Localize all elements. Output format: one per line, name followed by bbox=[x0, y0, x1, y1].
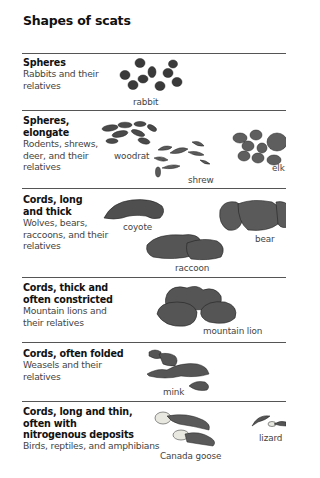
heading-line: often with bbox=[23, 418, 134, 430]
heading-line: Cords, often folded bbox=[23, 348, 123, 360]
page-title: Shapes of scats bbox=[23, 13, 131, 28]
example-label: Canada goose bbox=[160, 451, 221, 461]
heading-line: and thick bbox=[23, 206, 82, 218]
section-description: Birds, reptiles, and amphibians bbox=[23, 440, 159, 452]
description-line: relatives bbox=[23, 80, 99, 92]
description-line: Birds, reptiles, and amphibians bbox=[23, 440, 159, 452]
mink-scat-illustration bbox=[145, 348, 225, 393]
heading-line: Spheres, bbox=[23, 115, 69, 127]
section-heading: Cords, thick and often constricted bbox=[23, 282, 113, 305]
example-label: elk bbox=[272, 163, 285, 173]
lizard-scat-illustration bbox=[250, 412, 286, 430]
section-description: Rabbits and their relatives bbox=[23, 68, 99, 91]
section-description: Weasels and their relatives bbox=[23, 359, 102, 382]
section-description: Rodents, shrews, deer, and their relativ… bbox=[23, 138, 98, 173]
example-label: mountain lion bbox=[203, 326, 262, 336]
description-line: deer, and their bbox=[23, 150, 98, 162]
example-label: woodrat bbox=[114, 151, 149, 161]
example-label: shrew bbox=[188, 175, 214, 185]
shrew-scat-illustration bbox=[150, 138, 215, 178]
example-label: rabbit bbox=[133, 97, 158, 107]
description-line: Mountain lions and bbox=[23, 305, 107, 317]
heading-line: often constricted bbox=[23, 294, 113, 306]
section-heading: Spheres bbox=[23, 57, 66, 69]
heading-line: nitrogenous deposits bbox=[23, 429, 134, 441]
example-label: bear bbox=[255, 234, 275, 244]
description-line: raccoons, and their bbox=[23, 229, 108, 241]
description-line: Wolves, bears, bbox=[23, 217, 108, 229]
canada-goose-scat-illustration bbox=[153, 410, 223, 450]
description-line: relatives bbox=[23, 240, 108, 252]
section-description: Wolves, bears, raccoons, and their relat… bbox=[23, 217, 108, 252]
description-line: relatives bbox=[23, 371, 102, 383]
example-label: raccoon bbox=[175, 263, 209, 273]
description-line: relatives bbox=[23, 161, 98, 173]
heading-line: Cords, thick and bbox=[23, 282, 113, 294]
section-heading: Cords, often folded bbox=[23, 348, 123, 360]
section-heading: Cords, long and thin, often with nitroge… bbox=[23, 406, 134, 441]
example-label: lizard bbox=[259, 433, 282, 443]
section-divider bbox=[22, 53, 286, 54]
description-line: Rabbits and their bbox=[23, 68, 99, 80]
description-line: their relatives bbox=[23, 317, 107, 329]
rabbit-scat-illustration bbox=[110, 58, 190, 98]
section-heading: Cords, long and thick bbox=[23, 194, 82, 217]
heading-line: Spheres bbox=[23, 57, 66, 69]
description-line: Weasels and their bbox=[23, 359, 102, 371]
section-description: Mountain lions and their relatives bbox=[23, 305, 107, 328]
heading-line: elongate bbox=[23, 127, 69, 139]
section-divider bbox=[22, 277, 286, 278]
mountain-lion-scat-illustration bbox=[155, 284, 245, 329]
section-divider bbox=[22, 401, 286, 402]
section-divider bbox=[22, 188, 286, 189]
example-label: mink bbox=[163, 387, 184, 397]
section-divider bbox=[22, 110, 286, 111]
description-line: Rodents, shrews, bbox=[23, 138, 98, 150]
bear-scat-illustration bbox=[218, 198, 286, 238]
section-divider bbox=[22, 342, 286, 343]
raccoon-scat-illustration bbox=[145, 233, 230, 263]
heading-line: Cords, long bbox=[23, 194, 82, 206]
heading-line: Cords, long and thin, bbox=[23, 406, 134, 418]
section-heading: Spheres, elongate bbox=[23, 115, 69, 138]
example-label: coyote bbox=[123, 222, 152, 232]
